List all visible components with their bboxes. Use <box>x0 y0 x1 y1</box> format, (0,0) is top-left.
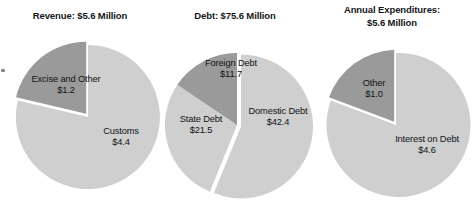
pie-annual-expenditures-slices <box>327 50 471 197</box>
pie-label-state-debt: State Debt $21.5 <box>170 114 232 136</box>
chart-panel-annual-expenditures: Annual Expenditures: $5.6 Million Other … <box>312 0 472 211</box>
pie-chart-figure: Revenue: $5.6 Million Excise and Other $… <box>0 0 472 211</box>
pie-label-other: Other $1.0 <box>344 78 404 100</box>
chart-panel-revenue: Revenue: $5.6 Million Excise and Other $… <box>0 0 160 211</box>
pie-label-customs: Customs $4.4 <box>88 126 154 148</box>
pie-revenue-slices <box>16 42 160 189</box>
pie-debt: Foreign Debt $11.7 State Debt $21.5 Dome… <box>156 0 314 211</box>
pie-label-domestic-debt: Domestic Debt $42.4 <box>244 106 312 128</box>
pie-revenue: Excise and Other $1.2 Customs $4.4 <box>0 0 160 211</box>
chart-panel-debt: Debt: $75.6 Million Foreign Debt $11.7 S… <box>156 0 314 211</box>
pie-annual-expenditures-svg <box>312 0 472 211</box>
pie-label-excise-and-other: Excise and Other $1.2 <box>30 74 102 96</box>
pie-label-foreign-debt: Foreign Debt $11.7 <box>200 58 262 80</box>
pie-revenue-svg <box>0 0 160 211</box>
pie-label-interest-on-debt: Interest on Debt $4.6 <box>394 134 460 156</box>
pie-annual-expenditures: Other $1.0 Interest on Debt $4.6 <box>312 0 472 211</box>
